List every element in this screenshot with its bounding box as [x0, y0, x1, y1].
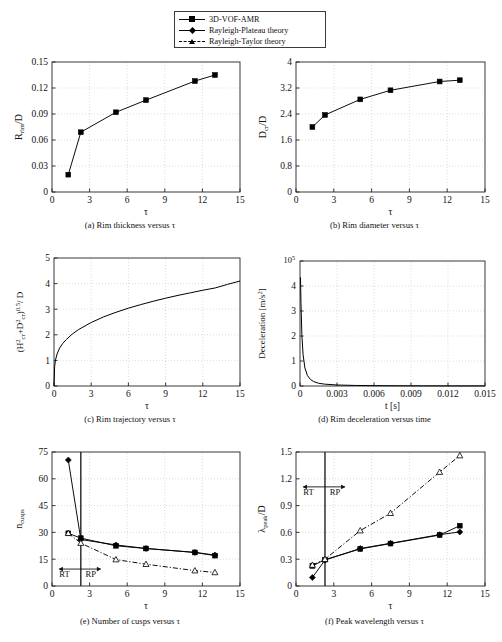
diamond-marker-icon: [178, 25, 206, 36]
svg-text:τ: τ: [389, 601, 393, 611]
svg-text:3: 3: [89, 389, 94, 399]
subplot-f-peak-wavelength: 0369121500.30.60.91.21.5τλpeak /DRTRP (f…: [252, 442, 497, 638]
subplot-f-caption: (f) Peak wavelength versus τ: [252, 616, 497, 626]
svg-text:0.06: 0.06: [31, 135, 48, 145]
svg-text:τ: τ: [144, 207, 148, 217]
svg-text:45: 45: [39, 501, 49, 511]
svg-text:12: 12: [198, 195, 208, 205]
svg-text:0: 0: [43, 581, 48, 591]
svg-text:0: 0: [298, 389, 303, 399]
svg-text:6: 6: [125, 589, 130, 599]
svg-text:1.2: 1.2: [280, 474, 292, 484]
svg-text:15: 15: [235, 195, 245, 205]
svg-text:6: 6: [126, 389, 131, 399]
svg-text:6: 6: [125, 195, 130, 205]
svg-text:0: 0: [50, 589, 55, 599]
figure-panel-grid: 3D-VOF-AMR Rayleigh-Plateau theory Rayle…: [0, 0, 502, 642]
svg-text:1: 1: [291, 356, 296, 366]
svg-text:Rrim /D: Rrim /D: [13, 114, 25, 140]
svg-text:(H2 cr +D2 cr )0.5 / D: (H2 cr +D2 cr )0.5 / D: [14, 291, 27, 352]
svg-text:3: 3: [291, 306, 296, 316]
svg-text:0: 0: [287, 581, 292, 591]
svg-text:0.012: 0.012: [437, 389, 459, 399]
legend-entry-rt: Rayleigh-Taylor theory: [178, 36, 322, 47]
svg-text:1.6: 1.6: [280, 135, 292, 145]
svg-text:0: 0: [52, 389, 57, 399]
subplot-a-plot-area: 0369121500.030.060.090.120.15τRrim /D: [10, 52, 250, 222]
subplot-a-caption: (a) Rim thickness versus τ: [10, 220, 250, 230]
svg-text:Dcr /D: Dcr /D: [257, 116, 269, 138]
svg-text:9: 9: [407, 589, 412, 599]
svg-text:12: 12: [198, 589, 208, 599]
svg-text:2.4: 2.4: [280, 109, 292, 119]
subplot-b-plot-area: 0369121500.81.62.43.24τDcr /D: [252, 52, 497, 222]
svg-text:0.9: 0.9: [280, 501, 292, 511]
svg-text:3: 3: [45, 305, 50, 315]
svg-text:5: 5: [45, 253, 50, 263]
svg-text:0: 0: [294, 195, 299, 205]
svg-text:0.3: 0.3: [280, 555, 292, 565]
svg-text:15: 15: [235, 589, 245, 599]
subplot-b-caption: (b) Rim diameter versus τ: [252, 220, 497, 230]
svg-text:τ: τ: [145, 401, 149, 411]
svg-text:12: 12: [442, 589, 452, 599]
svg-text:RT: RT: [303, 487, 314, 497]
svg-text:4: 4: [45, 279, 50, 289]
svg-text:12: 12: [442, 195, 452, 205]
subplot-f-plot-area: 0369121500.30.60.91.21.5τλpeak /DRTRP: [252, 442, 497, 618]
svg-text:0: 0: [45, 381, 50, 391]
svg-text:τ: τ: [144, 601, 148, 611]
svg-text:3: 3: [87, 589, 92, 599]
svg-text:75: 75: [39, 447, 49, 457]
svg-text:4: 4: [287, 57, 292, 67]
subplot-a-rim-thickness: 0369121500.030.060.090.120.15τRrim /D (a…: [10, 52, 250, 238]
svg-text:0.006: 0.006: [363, 389, 385, 399]
svg-text:0.8: 0.8: [280, 161, 292, 171]
svg-text:6: 6: [369, 589, 374, 599]
svg-text:ncusps: ncusps: [13, 509, 25, 529]
svg-text:0: 0: [291, 381, 296, 391]
svg-text:0.015: 0.015: [474, 389, 496, 399]
svg-text:3: 3: [87, 195, 92, 205]
svg-text:τ: τ: [389, 207, 393, 217]
svg-text:0.03: 0.03: [31, 161, 48, 171]
subplot-d-plot-area: 00.0030.0060.0090.0120.01501234105t [s]D…: [252, 248, 497, 416]
subplot-c-plot-area: 03691215012345τ(H2 cr +D2 cr )0.5 / D: [10, 248, 250, 416]
subplot-c-caption: (c) Rim trajectory versus τ: [10, 414, 250, 424]
subplot-e-plot-area: 0369121501530456075τncusps RTRP: [10, 442, 250, 618]
svg-text:15: 15: [480, 195, 490, 205]
svg-text:t [s]: t [s]: [385, 401, 400, 411]
svg-text:2: 2: [45, 330, 50, 340]
svg-text:12: 12: [198, 389, 208, 399]
subplot-e-caption: (e) Number of cusps versus τ: [10, 616, 250, 626]
subplot-d-rim-deceleration: 00.0030.0060.0090.0120.01501234105t [s]D…: [252, 248, 497, 434]
legend-label-rt: Rayleigh-Taylor theory: [206, 36, 286, 47]
subplot-b-rim-diameter: 0369121500.81.62.43.24τDcr /D (b) Rim di…: [252, 52, 497, 238]
subplot-e-number-of-cusps: 0369121501530456075τncusps RTRP (e) Numb…: [10, 442, 250, 638]
svg-text:9: 9: [407, 195, 412, 205]
svg-text:15: 15: [235, 389, 245, 399]
svg-text:RP: RP: [330, 487, 341, 497]
svg-text:λpeak /D: λpeak /D: [256, 505, 268, 532]
svg-text:0.09: 0.09: [31, 109, 48, 119]
triangle-marker-icon: [178, 36, 206, 47]
svg-text:Deceleration [m/s2 ]: Deceleration [m/s2 ]: [256, 288, 267, 359]
svg-text:RT: RT: [59, 569, 70, 579]
svg-text:0.009: 0.009: [400, 389, 422, 399]
svg-text:RP: RP: [86, 569, 97, 579]
svg-text:3: 3: [331, 195, 336, 205]
svg-text:3.2: 3.2: [280, 83, 292, 93]
svg-text:15: 15: [480, 589, 490, 599]
legend-label-vof: 3D-VOF-AMR: [206, 14, 260, 25]
subplot-d-caption: (d) Rim deceleration versus time: [252, 414, 497, 424]
svg-text:9: 9: [162, 589, 167, 599]
svg-text:0.003: 0.003: [326, 389, 348, 399]
legend-entry-vof: 3D-VOF-AMR: [178, 14, 322, 25]
svg-text:0.12: 0.12: [31, 83, 48, 93]
svg-text:0.15: 0.15: [31, 57, 48, 67]
svg-text:0: 0: [43, 187, 48, 197]
svg-text:0: 0: [294, 589, 299, 599]
svg-text:9: 9: [162, 195, 167, 205]
subplot-c-rim-trajectory: 03691215012345τ(H2 cr +D2 cr )0.5 / D (c…: [10, 248, 250, 434]
svg-text:3: 3: [331, 589, 336, 599]
